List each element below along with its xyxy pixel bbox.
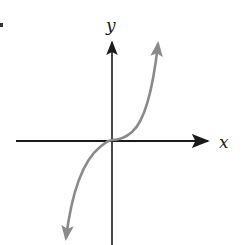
y-axis-label: y — [105, 15, 116, 35]
plot-area: y x — [0, 0, 243, 245]
x-axis-label: x — [219, 132, 229, 152]
cubic-graph: y x — [0, 0, 243, 245]
